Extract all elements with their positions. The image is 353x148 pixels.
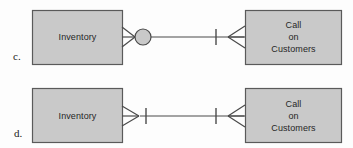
row-label-d: d.	[14, 128, 22, 139]
row-d-entity-inventory-box	[33, 89, 123, 143]
row-c-group	[33, 11, 342, 65]
row-d-entity-call-box	[246, 89, 342, 143]
row-d-group	[33, 89, 342, 143]
row-c-right-crows-foot-icon	[228, 26, 245, 48]
row-c-entity-call-box	[246, 11, 342, 65]
row-c-left-crows-foot-icon	[122, 27, 135, 47]
row-label-c: c.	[13, 51, 21, 62]
row-d-left-crows-foot-icon	[122, 106, 139, 126]
row-c-left-zero-circle-icon	[135, 29, 151, 45]
er-diagram-svg	[0, 0, 353, 148]
row-c-entity-inventory-box	[33, 11, 123, 65]
row-d-right-crows-foot-icon	[228, 105, 245, 127]
diagram-canvas: c. Inventory Call on Customers d. Invent…	[0, 0, 353, 148]
